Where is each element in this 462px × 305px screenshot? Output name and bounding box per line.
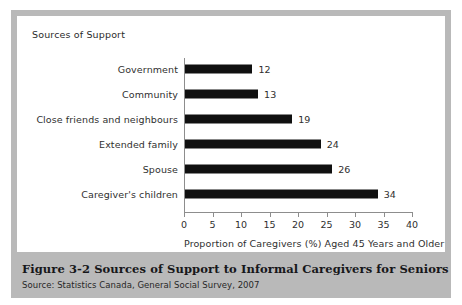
bar-row: Close friends and neighbours 19 xyxy=(17,108,445,130)
x-axis-tick xyxy=(270,212,271,217)
bar-row: Extended family 24 xyxy=(17,133,445,155)
x-axis-tick xyxy=(213,212,214,217)
x-axis-title: Proportion of Caregivers (%) Aged 45 Yea… xyxy=(184,238,413,249)
x-axis-tick xyxy=(241,212,242,217)
y-axis-line xyxy=(184,58,185,212)
category-label: Caregiver's children xyxy=(81,189,178,200)
x-axis-tick xyxy=(355,212,356,217)
x-axis-tick-label: 0 xyxy=(181,219,187,230)
bar-row: Government 12 xyxy=(17,58,445,80)
bar-chart-plot: Government 12 Community 13 Close friends… xyxy=(17,16,445,252)
x-axis-tick-label: 10 xyxy=(235,219,247,230)
category-label: Community xyxy=(122,89,178,100)
bar-value-label: 34 xyxy=(384,189,396,200)
x-axis-tick-label: 25 xyxy=(320,219,332,230)
category-label: Government xyxy=(118,64,178,75)
bar xyxy=(184,190,378,199)
bar-row: Community 13 xyxy=(17,83,445,105)
bar xyxy=(184,90,258,99)
bar-value-label: 26 xyxy=(338,164,350,175)
bar-value-label: 19 xyxy=(298,114,310,125)
chart-card: Sources of Support Government 12 Communi… xyxy=(17,16,445,252)
bar-value-label: 24 xyxy=(327,139,339,150)
x-axis-tick-label: 35 xyxy=(377,219,389,230)
figure-source: Source: Statistics Canada, General Socia… xyxy=(22,280,259,290)
bar xyxy=(184,115,292,124)
x-axis-tick-label: 5 xyxy=(209,219,215,230)
x-axis-tick-label: 20 xyxy=(292,219,304,230)
caption-band: Figure 3-2 Sources of Support to Informa… xyxy=(11,258,451,298)
figure-caption: Figure 3-2 Sources of Support to Informa… xyxy=(22,262,449,276)
bar-row: Caregiver's children 34 xyxy=(17,183,445,205)
x-axis-tick xyxy=(184,212,185,217)
x-axis-tick-label: 30 xyxy=(349,219,361,230)
category-label: Extended family xyxy=(99,139,178,150)
x-axis-tick-label: 40 xyxy=(406,219,418,230)
x-axis-tick xyxy=(384,212,385,217)
bar-value-label: 12 xyxy=(258,64,270,75)
x-axis-tick-label: 15 xyxy=(263,219,275,230)
x-axis-tick xyxy=(327,212,328,217)
bar xyxy=(184,65,252,74)
x-axis-tick xyxy=(298,212,299,217)
figure-container: Sources of Support Government 12 Communi… xyxy=(11,10,451,298)
bar xyxy=(184,140,321,149)
bar-value-label: 13 xyxy=(264,89,276,100)
category-label: Spouse xyxy=(143,164,178,175)
bar-row: Spouse 26 xyxy=(17,158,445,180)
bar xyxy=(184,165,332,174)
category-label: Close friends and neighbours xyxy=(36,114,178,125)
x-axis-tick xyxy=(412,212,413,217)
